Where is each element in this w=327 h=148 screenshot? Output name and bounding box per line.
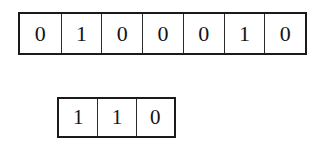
binary-cell: 1	[224, 14, 265, 53]
binary-row-top: 0 1 0 0 0 1 0	[18, 12, 307, 55]
binary-cell: 0	[142, 14, 183, 53]
binary-row-bottom: 1 1 0	[57, 97, 176, 138]
binary-cell: 1	[61, 14, 102, 53]
binary-cell: 0	[101, 14, 142, 53]
binary-cell: 0	[183, 14, 224, 53]
binary-cell: 0	[264, 14, 305, 53]
binary-cell: 0	[136, 99, 174, 136]
binary-cell: 0	[20, 14, 61, 53]
binary-cell: 1	[97, 99, 135, 136]
binary-cell: 1	[59, 99, 97, 136]
